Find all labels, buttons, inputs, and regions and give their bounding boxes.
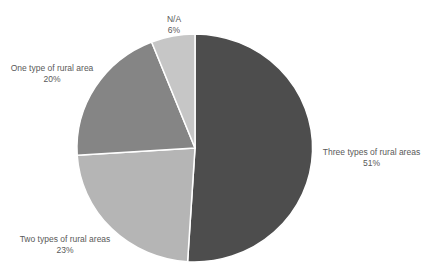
label-na-name: N/A [157, 14, 191, 25]
label-three-types-pct: 51% [318, 158, 425, 169]
label-three-types-name: Three types of rural areas [318, 147, 425, 158]
label-na-pct: 6% [157, 25, 191, 36]
label-one-type: One type of rural area 20% [2, 63, 102, 84]
label-two-types-pct: 23% [10, 245, 120, 256]
pie-chart [0, 0, 425, 271]
slice-three-types[interactable] [188, 34, 313, 262]
label-one-type-name: One type of rural area [2, 63, 102, 74]
label-one-type-pct: 20% [2, 74, 102, 85]
label-three-types: Three types of rural areas 51% [318, 147, 425, 168]
label-two-types-name: Two types of rural areas [10, 234, 120, 245]
label-two-types: Two types of rural areas 23% [10, 234, 120, 255]
label-na: N/A 6% [157, 14, 191, 35]
